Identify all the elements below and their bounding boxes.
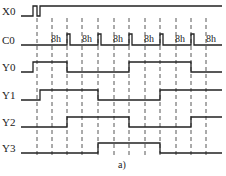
signal-waveforms — [21, 6, 222, 153]
signal-labels: X0C0Y0Y1Y2Y3 — [2, 5, 16, 154]
c0-interval-label: 8h — [51, 33, 61, 44]
waveform-y3 — [21, 143, 222, 153]
c0-interval-label: 8h — [82, 33, 92, 44]
c0-interval-label: 8h — [206, 33, 216, 44]
timing-diagram: X0C0Y0Y1Y2Y3 8h8h8h8h8h8h a) — [0, 0, 226, 176]
signal-label-y3: Y3 — [2, 142, 16, 154]
figure-caption: a) — [118, 159, 126, 171]
c0-interval-label: 8h — [113, 33, 123, 44]
waveform-y0 — [21, 62, 222, 72]
signal-label-c0: C0 — [2, 34, 15, 46]
signal-label-y1: Y1 — [2, 89, 15, 101]
signal-label-x0: X0 — [2, 5, 16, 17]
waveform-y2 — [21, 117, 222, 127]
signal-label-y2: Y2 — [2, 116, 15, 128]
signal-label-y0: Y0 — [2, 61, 16, 73]
waveform-y1 — [21, 90, 222, 100]
c0-interval-label: 8h — [175, 33, 185, 44]
waveform-x0 — [21, 6, 222, 16]
c0-interval-label: 8h — [144, 33, 154, 44]
